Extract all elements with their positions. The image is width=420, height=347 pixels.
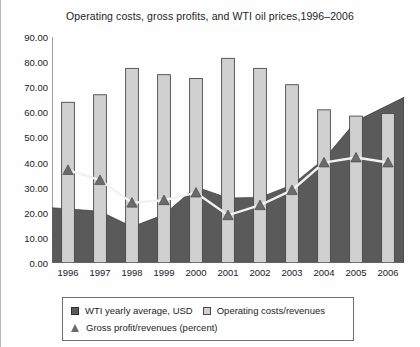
legend-label-gross-profit: Gross profit/revenues (percent) — [86, 322, 217, 333]
dark-square-icon — [71, 307, 79, 315]
legend-item-operating-costs: Operating costs/revenues — [203, 305, 325, 316]
chart-figure: Operating costs, gross profits, and WTI … — [0, 0, 420, 347]
chart-legend: WTI yearly average, USD Operating costs/… — [62, 297, 354, 341]
legend-item-wti: WTI yearly average, USD — [71, 305, 193, 316]
bar — [126, 68, 139, 263]
x-axis-tick-label: 1999 — [153, 267, 174, 278]
x-axis-tick-label: 2001 — [217, 267, 238, 278]
bar — [318, 110, 331, 263]
x-axis-tick-label: 2004 — [313, 267, 334, 278]
x-axis-tick-label: 2002 — [249, 267, 270, 278]
chart-canvas — [52, 37, 404, 263]
legend-item-gross-profit: Gross profit/revenues (percent) — [71, 322, 217, 333]
y-axis-tick-label: 70.00 — [2, 82, 48, 93]
y-axis-tick-labels: 90.0080.0070.0060.0050.0040.0030.0020.00… — [0, 0, 48, 347]
y-axis-tick-label: 50.00 — [2, 132, 48, 143]
light-square-icon — [203, 307, 211, 315]
x-axis-tick-labels: 1996199719981999200020012002200320042005… — [52, 267, 404, 283]
legend-row-2: Gross profit/revenues (percent) — [71, 319, 347, 336]
bar — [222, 58, 235, 263]
x-axis-tick-label: 1998 — [121, 267, 142, 278]
legend-row-1: WTI yearly average, USD Operating costs/… — [71, 302, 347, 319]
y-axis-tick-label: 80.00 — [2, 57, 48, 68]
y-axis-tick-label: 60.00 — [2, 107, 48, 118]
x-axis-tick-label: 1997 — [89, 267, 110, 278]
triangle-icon — [71, 324, 80, 332]
y-axis-tick-label: 30.00 — [2, 182, 48, 193]
x-axis-tick-label: 2006 — [377, 267, 398, 278]
legend-label-operating-costs: Operating costs/revenues — [217, 305, 325, 316]
y-axis-tick-label: 40.00 — [2, 157, 48, 168]
bar — [254, 68, 267, 263]
y-axis-tick-label: 0.00 — [2, 258, 48, 269]
legend-label-wti: WTI yearly average, USD — [85, 305, 193, 316]
bar — [286, 85, 299, 263]
x-axis-tick-label: 2000 — [185, 267, 206, 278]
chart-title: Operating costs, gross profits, and WTI … — [0, 10, 420, 22]
x-axis-tick-label: 2003 — [281, 267, 302, 278]
bar — [190, 78, 203, 263]
x-axis-tick-label: 2005 — [345, 267, 366, 278]
plot-area — [52, 37, 404, 263]
y-axis-tick-label: 10.00 — [2, 232, 48, 243]
bar — [158, 75, 171, 263]
bar — [350, 116, 363, 263]
x-axis-tick-label: 1996 — [57, 267, 78, 278]
y-axis-tick-label: 20.00 — [2, 207, 48, 218]
bar — [382, 114, 395, 263]
bar — [62, 102, 75, 263]
y-axis-tick-label: 90.00 — [2, 32, 48, 43]
